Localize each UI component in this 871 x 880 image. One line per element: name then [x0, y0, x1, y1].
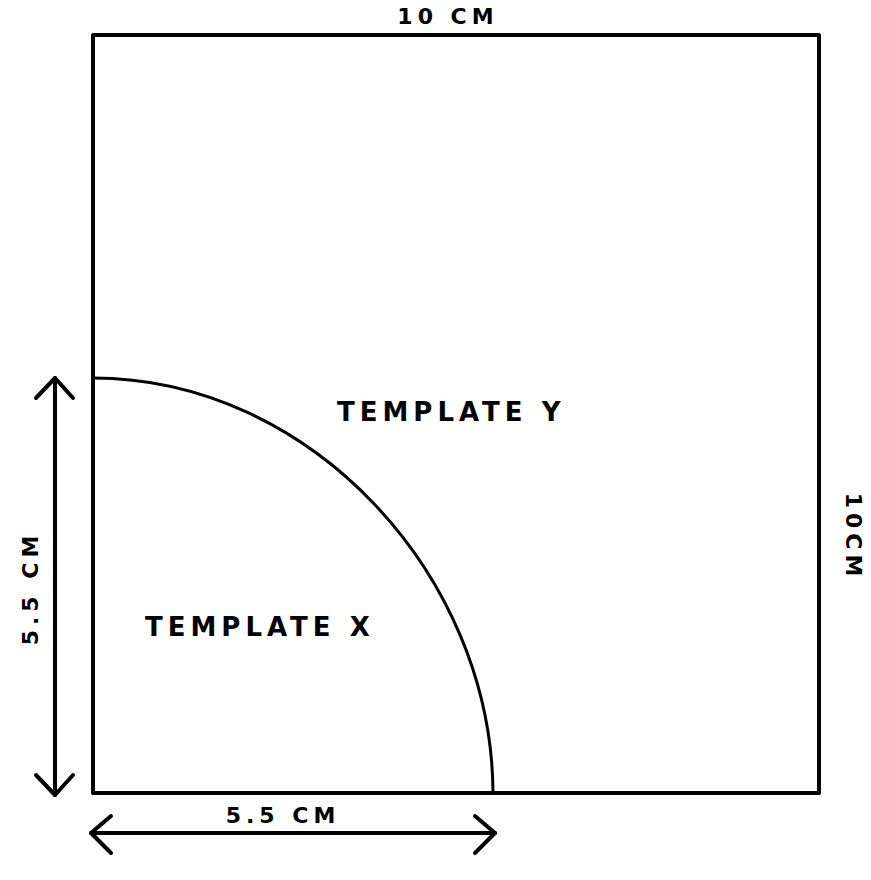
- top-dimension-label: 10 CM: [397, 4, 498, 29]
- template-y-label: TEMPLATE Y: [337, 397, 565, 427]
- right-dimension-label: 10CM: [841, 493, 866, 582]
- vertical-dimension-label: 5.5 CM: [18, 531, 43, 646]
- quarter-circle-arc: [93, 378, 493, 793]
- horizontal-dimension-label: 5.5 CM: [226, 803, 341, 828]
- template-diagram: 10 CM 10CM 5.5 CM 5.5 CM TEMPLATE X TEMP…: [0, 0, 871, 880]
- template-x-label: TEMPLATE X: [145, 612, 375, 642]
